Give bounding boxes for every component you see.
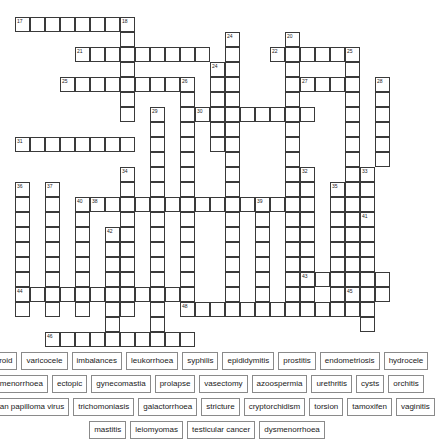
crossword-cell[interactable] [120, 197, 135, 212]
crossword-cell[interactable] [90, 17, 105, 32]
crossword-cell[interactable] [225, 137, 240, 152]
crossword-cell[interactable]: 36 [15, 182, 30, 197]
crossword-cell[interactable] [75, 302, 90, 317]
crossword-cell[interactable] [210, 137, 225, 152]
crossword-cell[interactable]: 30 [195, 107, 210, 122]
crossword-cell[interactable] [105, 287, 120, 302]
crossword-cell[interactable] [315, 47, 330, 62]
crossword-cell[interactable]: 25 [345, 47, 360, 62]
crossword-cell[interactable] [165, 287, 180, 302]
crossword-cell[interactable] [285, 272, 300, 287]
crossword-cell[interactable] [255, 107, 270, 122]
crossword-cell[interactable] [90, 287, 105, 302]
crossword-cell[interactable] [330, 257, 345, 272]
crossword-cell[interactable] [345, 242, 360, 257]
crossword-cell[interactable] [45, 17, 60, 32]
crossword-cell[interactable] [30, 287, 45, 302]
crossword-cell[interactable] [330, 212, 345, 227]
crossword-cell[interactable] [240, 107, 255, 122]
crossword-cell[interactable] [345, 107, 360, 122]
crossword-cell[interactable] [300, 107, 315, 122]
crossword-cell[interactable] [180, 272, 195, 287]
crossword-cell[interactable] [195, 197, 210, 212]
crossword-cell[interactable] [135, 287, 150, 302]
crossword-cell[interactable] [75, 212, 90, 227]
crossword-cell[interactable] [285, 302, 300, 317]
crossword-cell[interactable] [60, 287, 75, 302]
crossword-cell[interactable]: 27 [300, 77, 315, 92]
crossword-cell[interactable] [150, 212, 165, 227]
crossword-cell[interactable] [255, 257, 270, 272]
crossword-cell[interactable] [285, 47, 300, 62]
crossword-cell[interactable] [75, 137, 90, 152]
crossword-cell[interactable] [180, 257, 195, 272]
crossword-cell[interactable] [180, 92, 195, 107]
crossword-cell[interactable]: 25 [60, 77, 75, 92]
crossword-cell[interactable] [225, 197, 240, 212]
word-bank-item[interactable]: torsion [309, 398, 343, 416]
word-bank-item[interactable]: vaginitis [396, 398, 435, 416]
crossword-cell[interactable] [135, 47, 150, 62]
crossword-cell[interactable] [360, 242, 375, 257]
crossword-cell[interactable] [225, 47, 240, 62]
crossword-cell[interactable] [375, 107, 390, 122]
crossword-cell[interactable] [255, 212, 270, 227]
crossword-cell[interactable] [180, 107, 195, 122]
crossword-cell[interactable] [300, 227, 315, 242]
crossword-cell[interactable] [345, 122, 360, 137]
crossword-cell[interactable] [285, 242, 300, 257]
crossword-cell[interactable] [255, 227, 270, 242]
crossword-cell[interactable] [105, 77, 120, 92]
word-bank-item[interactable]: prostitis [278, 352, 316, 370]
crossword-cell[interactable] [285, 62, 300, 77]
word-bank-item[interactable]: mastitis [89, 421, 126, 439]
crossword-cell[interactable]: 48 [180, 302, 195, 317]
crossword-cell[interactable] [150, 182, 165, 197]
crossword-cell[interactable] [285, 197, 300, 212]
crossword-cell[interactable] [225, 242, 240, 257]
crossword-cell[interactable] [120, 77, 135, 92]
crossword-cell[interactable] [285, 212, 300, 227]
word-bank-item[interactable]: trichomoniasis [73, 398, 134, 416]
word-bank-item[interactable]: urethritis [311, 375, 352, 393]
crossword-cell[interactable] [330, 242, 345, 257]
crossword-cell[interactable] [150, 77, 165, 92]
crossword-cell[interactable] [135, 77, 150, 92]
crossword-cell[interactable] [150, 257, 165, 272]
crossword-cell[interactable] [150, 47, 165, 62]
crossword-cell[interactable] [105, 317, 120, 332]
crossword-cell[interactable] [105, 302, 120, 317]
crossword-cell[interactable] [255, 272, 270, 287]
crossword-cell[interactable] [225, 122, 240, 137]
crossword-cell[interactable] [210, 197, 225, 212]
crossword-cell[interactable] [255, 302, 270, 317]
crossword-cell[interactable] [195, 47, 210, 62]
crossword-cell[interactable] [180, 122, 195, 137]
crossword-cell[interactable] [45, 197, 60, 212]
crossword-cell[interactable] [285, 227, 300, 242]
word-bank-item[interactable]: cysts [356, 375, 384, 393]
crossword-cell[interactable]: 35 [330, 182, 345, 197]
crossword-cell[interactable] [255, 287, 270, 302]
crossword-cell[interactable] [45, 272, 60, 287]
crossword-cell[interactable]: 29 [150, 107, 165, 122]
crossword-cell[interactable] [150, 137, 165, 152]
crossword-cell[interactable] [285, 77, 300, 92]
crossword-cell[interactable]: 22 [270, 47, 285, 62]
word-bank-item[interactable]: cryptorchidism [244, 398, 306, 416]
word-bank-item[interactable]: endometriosis [320, 352, 380, 370]
crossword-cell[interactable] [120, 107, 135, 122]
crossword-cell[interactable] [150, 287, 165, 302]
crossword-cell[interactable] [330, 227, 345, 242]
crossword-cell[interactable] [330, 272, 345, 287]
crossword-cell[interactable] [315, 272, 330, 287]
word-bank-item[interactable]: syphilis [182, 352, 218, 370]
word-bank-item[interactable]: gynecomastia [91, 375, 150, 393]
crossword-cell[interactable] [225, 302, 240, 317]
crossword-cell[interactable] [240, 197, 255, 212]
crossword-cell[interactable] [375, 272, 390, 287]
crossword-cell[interactable] [285, 107, 300, 122]
crossword-cell[interactable]: 17 [15, 17, 30, 32]
crossword-cell[interactable] [225, 182, 240, 197]
crossword-cell[interactable] [165, 197, 180, 212]
